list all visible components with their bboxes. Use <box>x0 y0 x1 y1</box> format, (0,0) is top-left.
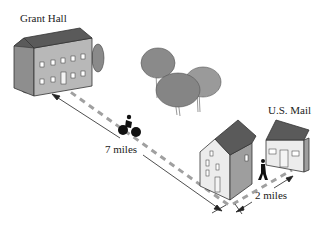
post-office-label: U.S. Mail <box>268 104 311 116</box>
distance-label-2-miles: 2 miles <box>255 189 287 201</box>
house-building <box>200 120 256 200</box>
illustration: Grant Hall U.S. Mail 7 miles 2 miles <box>0 0 321 227</box>
post-office-building <box>266 120 309 172</box>
trees <box>141 48 221 116</box>
grant-hall-label: Grant Hall <box>20 12 67 24</box>
grant-hall-building <box>14 28 104 96</box>
distance-label-7-miles: 7 miles <box>105 143 137 155</box>
